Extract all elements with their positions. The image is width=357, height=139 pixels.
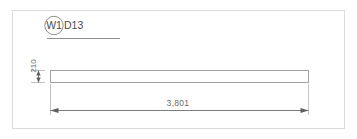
beam-outline [51, 71, 309, 83]
length-dimension-text: 3,801 [140, 99, 216, 108]
member-mark-balloon-label: W1 [45, 20, 63, 31]
member-section-label: D13 [64, 20, 83, 31]
depth-dimension-text: 210 [30, 53, 38, 79]
drawing-canvas: W1 D13 210 3,801 [0, 0, 357, 139]
